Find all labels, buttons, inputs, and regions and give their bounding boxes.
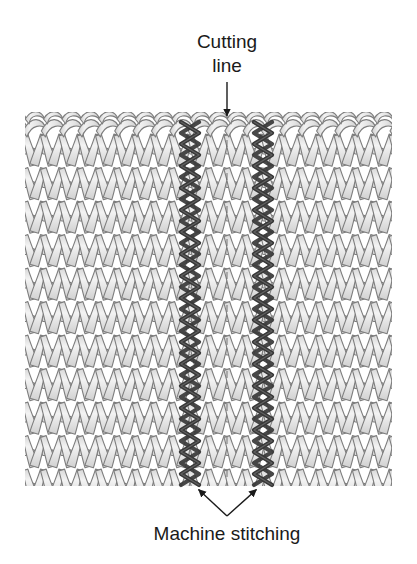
machine-stitching-label: Machine stitching [154, 523, 301, 544]
knit-fabric [4, 112, 414, 502]
knitting-diagram: Cutting line Machine stitching [0, 0, 417, 564]
cutting-line-label-2: line [212, 55, 242, 76]
cutting-line-label-1: Cutting [197, 31, 257, 52]
